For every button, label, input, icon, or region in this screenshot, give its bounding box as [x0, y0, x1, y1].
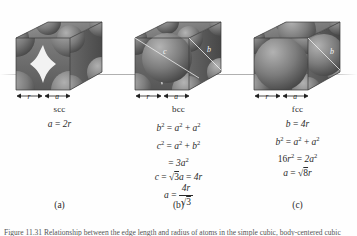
scc-dim-r-label: r — [27, 92, 30, 101]
panel-fcc: b r a fcc b = 4r b2 = a2 + a2 — [238, 0, 357, 236]
bcc-dim-a-label: a — [174, 92, 178, 101]
bcc-equation-3: = 3a2 — [119, 153, 238, 171]
fcc-dim-r-label: r — [265, 92, 268, 101]
scc-equation-1: a = 2r — [0, 118, 119, 132]
figure-caption: Figure 11.31 Relationship between the ed… — [4, 228, 353, 236]
panel-scc: r a scc a = 2r (a) — [0, 0, 119, 236]
bcc-panel-tag: (b) — [119, 200, 238, 210]
fcc-equation-3: 16r2 = 2a2 — [238, 149, 357, 167]
scc-panel-tag: (a) — [0, 200, 119, 210]
fcc-panel-tag: (c) — [238, 200, 357, 210]
fcc-dim-a-label: a — [293, 92, 297, 101]
bcc-equation-1: b2 = a2 + a2 — [119, 118, 238, 136]
crystal-unit-cell-figure: r a scc a = 2r (a) — [0, 0, 357, 236]
fcc-equation-2: b2 = a2 + a2 — [238, 132, 357, 150]
fcc-equations: b = 4r b2 = a2 + a2 16r2 = 2a2 a = √8r — [238, 118, 357, 180]
scc-cell-name: scc — [0, 104, 119, 114]
bcc-dim-r-label: r — [146, 92, 149, 101]
scc-cell-illustration: r a — [8, 8, 112, 102]
fcc-cell-illustration: b r a — [246, 8, 350, 102]
fcc-equation-4: a = √8r — [238, 167, 357, 181]
bcc-cell-name: bcc — [119, 104, 238, 114]
scc-dim-a-label: a — [55, 92, 59, 101]
bcc-diagonal-b-label: b — [207, 45, 211, 54]
panel-bcc: c b r a bcc b2 = a2 + a2 — [119, 0, 238, 236]
bcc-diagonal-c-label: c — [163, 47, 167, 56]
bcc-cell-illustration: c b r a — [127, 8, 231, 102]
fcc-diagonal-b-label: b — [330, 47, 334, 56]
fcc-cell-name: fcc — [238, 104, 357, 114]
bcc-equations: b2 = a2 + a2 c2 = a2 + b2 = 3a2 c = √3a … — [119, 118, 238, 208]
bcc-equation-4: c = √3a = 4r — [119, 171, 238, 185]
bcc-equation-2: c2 = a2 + b2 — [119, 136, 238, 154]
scc-equations: a = 2r — [0, 118, 119, 132]
fcc-equation-1: b = 4r — [238, 118, 357, 132]
